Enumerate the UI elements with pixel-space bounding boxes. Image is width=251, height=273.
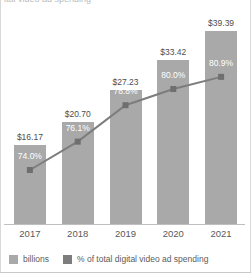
plot-area: $16.1774.0%$20.7076.1%$27.2378.8%$33.428…: [6, 8, 245, 224]
x-tick-2017: 2017: [8, 228, 52, 239]
pct-line-path: [30, 77, 221, 170]
line-marker-2019: [123, 102, 129, 108]
legend-label-0: billions: [23, 254, 49, 264]
frame-border-left: [0, 0, 1, 273]
truncated-title-text: ital video ad spending: [4, 0, 154, 5]
x-axis-tick-labels: 20172018201920202021: [6, 228, 245, 244]
line-marker-2018: [75, 139, 81, 145]
chart-card: ital video ad spending $16.1774.0%$20.70…: [0, 0, 251, 273]
x-axis-line: [4, 224, 245, 225]
frame-border-right: [250, 0, 251, 273]
legend-swatch-line: [63, 255, 72, 264]
legend-swatch-bars: [9, 255, 18, 264]
line-marker-2021: [218, 74, 224, 80]
x-tick-2018: 2018: [56, 228, 100, 239]
x-tick-2021: 2021: [199, 228, 243, 239]
x-tick-2020: 2020: [151, 228, 195, 239]
legend-label-1: % of total digital video ad spending: [77, 254, 208, 264]
line-series-layer: [6, 8, 245, 224]
line-marker-2020: [170, 86, 176, 92]
line-marker-2017: [27, 167, 33, 173]
chart-legend: billions% of total digital video ad spen…: [9, 252, 222, 266]
legend-item-0: billions: [9, 254, 49, 264]
x-tick-2019: 2019: [104, 228, 148, 239]
legend-item-1: % of total digital video ad spending: [63, 254, 208, 264]
